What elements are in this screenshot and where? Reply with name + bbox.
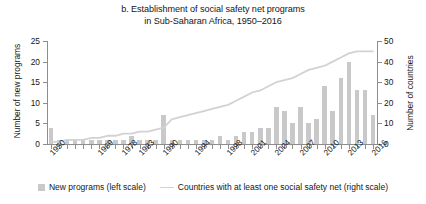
x-axis-tick — [180, 145, 181, 149]
line-layer — [47, 41, 377, 144]
chart-title-line-1: b. Establishment of social safety net pr… — [0, 4, 426, 16]
chart-title-line-2: in Sub-Saharan Africa, 1950–2016 — [0, 16, 426, 28]
x-axis-tick — [341, 145, 342, 149]
left-axis-title: Number of new programs — [12, 31, 22, 151]
x-axis-tick — [244, 145, 245, 149]
right-axis-line — [377, 41, 378, 145]
x-axis-tick — [292, 145, 293, 149]
x-axis-tick — [83, 145, 84, 149]
plot-area — [47, 41, 377, 144]
left-axis-tick — [43, 103, 47, 104]
right-axis-tick — [378, 123, 382, 124]
x-axis-tick — [115, 145, 116, 149]
chart-title: b. Establishment of social safety net pr… — [0, 4, 426, 27]
bar-swatch-icon — [38, 184, 45, 191]
legend-label-bars: New programs (left scale) — [49, 182, 146, 192]
legend-item-line: Countries with at least one social safet… — [160, 182, 388, 192]
x-axis-tick — [75, 145, 76, 149]
left-axis-tick — [43, 144, 47, 145]
right-axis-tick-label: 10 — [384, 119, 424, 127]
line-series-svg — [47, 41, 377, 144]
x-axis-tick — [91, 145, 92, 149]
right-axis-tick-label: 40 — [384, 58, 424, 66]
left-axis-tick — [43, 41, 47, 42]
x-axis-tick — [365, 145, 366, 149]
left-axis-tick — [43, 123, 47, 124]
x-axis-tick — [188, 145, 189, 149]
chart-legend: New programs (left scale) Countries with… — [0, 182, 426, 192]
right-axis-title: Number of countries — [405, 33, 415, 153]
right-axis-tick-label: 50 — [384, 37, 424, 45]
right-axis-tick-label: 0 — [384, 140, 424, 148]
countries-line-path — [51, 51, 373, 142]
right-axis-tick — [378, 103, 382, 104]
x-axis-tick — [156, 145, 157, 149]
x-axis-tick — [212, 145, 213, 149]
left-axis-tick — [43, 62, 47, 63]
left-axis-tick — [43, 82, 47, 83]
x-axis-tick — [220, 145, 221, 149]
right-axis-tick-label: 20 — [384, 99, 424, 107]
x-axis-tick — [317, 145, 318, 149]
x-axis-tick — [268, 145, 269, 149]
right-axis-tick — [378, 82, 382, 83]
legend-item-bars: New programs (left scale) — [38, 182, 146, 192]
right-axis-tick — [378, 62, 382, 63]
right-axis-tick-label: 30 — [384, 78, 424, 86]
line-swatch-icon — [160, 187, 174, 188]
right-axis-tick — [378, 41, 382, 42]
chart-figure: b. Establishment of social safety net pr… — [0, 0, 426, 204]
x-axis-tick — [67, 145, 68, 149]
legend-label-line: Countries with at least one social safet… — [178, 182, 388, 192]
